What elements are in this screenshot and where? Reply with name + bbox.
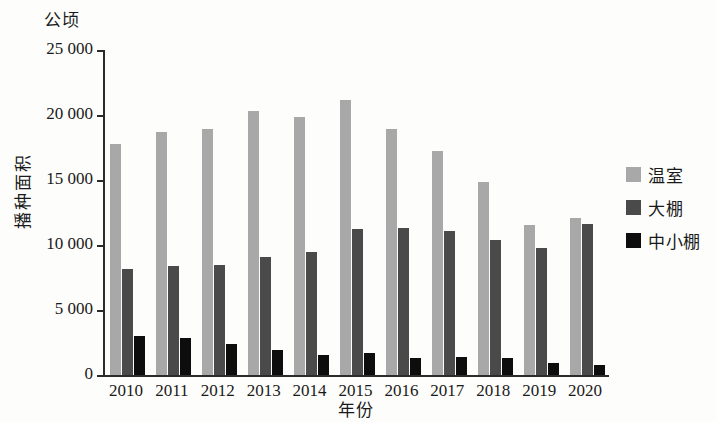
y-tick-label: 20 000 [13, 104, 93, 124]
plot-area: 05 00010 00015 00020 00025 000 201020112… [103, 50, 608, 375]
y-tick-label: 0 [13, 364, 93, 384]
legend-label: 大棚 [648, 195, 683, 220]
bar-2 [456, 357, 467, 375]
bar-group [340, 50, 375, 375]
legend-label: 温室 [648, 162, 683, 187]
bar-group [156, 50, 191, 375]
bar-group [248, 50, 283, 375]
bar-1 [168, 266, 179, 375]
y-tick-mark [97, 310, 104, 312]
bar-2 [318, 355, 329, 375]
y-tick-mark [97, 115, 104, 117]
bar-1 [214, 265, 225, 376]
bar-2 [180, 338, 191, 375]
bar-2 [502, 358, 513, 375]
bar-2 [548, 363, 559, 375]
y-tick-label: 5 000 [13, 299, 93, 319]
bar-0 [478, 182, 489, 375]
bar-1 [536, 248, 547, 375]
bar-2 [594, 365, 605, 375]
x-axis-line [103, 375, 609, 377]
y-axis-units-label: 公顷 [44, 6, 79, 31]
bar-1 [490, 240, 501, 375]
bar-0 [156, 132, 167, 375]
bar-2 [134, 336, 145, 375]
legend-item[interactable]: 大棚 [626, 191, 716, 224]
bar-2 [364, 353, 375, 375]
bar-1 [582, 224, 593, 375]
y-axis-line [103, 50, 105, 376]
bar-group [294, 50, 329, 375]
bar-2 [272, 350, 283, 375]
legend-swatch-icon [626, 167, 641, 182]
y-tick-mark [97, 50, 104, 52]
bar-1 [306, 252, 317, 376]
y-tick-label: 25 000 [13, 39, 93, 59]
legend-swatch-icon [626, 233, 641, 248]
bar-0 [202, 129, 213, 375]
bar-1 [352, 229, 363, 375]
bar-0 [248, 111, 259, 375]
bar-0 [570, 218, 581, 375]
bar-2 [226, 344, 237, 375]
bar-group [570, 50, 605, 375]
x-axis-title: 年份 [103, 396, 608, 421]
bar-0 [386, 129, 397, 375]
chart-figure: 公顷 播种面积 05 00010 00015 00020 00025 000 2… [0, 0, 716, 422]
bar-1 [260, 257, 271, 375]
y-tick-mark [97, 375, 104, 377]
y-tick-label: 10 000 [13, 234, 93, 254]
bar-2 [410, 358, 421, 375]
bar-0 [294, 117, 305, 375]
y-tick-mark [97, 245, 104, 247]
bar-0 [340, 100, 351, 375]
bar-1 [122, 269, 133, 375]
bar-group [524, 50, 559, 375]
bar-group [202, 50, 237, 375]
y-tick-mark [97, 180, 104, 182]
bar-0 [110, 144, 121, 375]
chart-legend: 温室大棚中小棚 [626, 158, 716, 257]
legend-item[interactable]: 温室 [626, 158, 716, 191]
bar-group [386, 50, 421, 375]
legend-label: 中小棚 [648, 228, 701, 253]
bar-0 [524, 225, 535, 375]
bar-0 [432, 151, 443, 375]
bar-1 [444, 231, 455, 375]
bar-group [478, 50, 513, 375]
bar-group [432, 50, 467, 375]
y-tick-label: 15 000 [13, 169, 93, 189]
legend-item[interactable]: 中小棚 [626, 224, 716, 257]
bar-group [110, 50, 145, 375]
legend-swatch-icon [626, 200, 641, 215]
bar-1 [398, 228, 409, 375]
